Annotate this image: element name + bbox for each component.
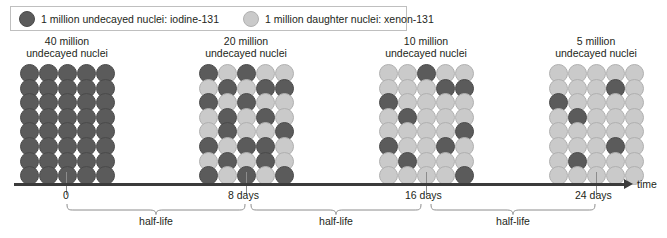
nuclei-group-title-16-days: 10 million undecayed nuclei bbox=[356, 36, 496, 59]
halflife-label-3: half-life bbox=[430, 215, 596, 227]
nuclei-group-16-days: 10 million undecayed nuclei bbox=[356, 36, 496, 181]
nuclei-group-title-24-days: 5 million undecayed nuclei bbox=[526, 36, 666, 59]
diagram-canvas: 1 million undecayed nuclei: iodine-131 1… bbox=[0, 0, 667, 238]
nuclei-group-title-0-days: 40 million undecayed nuclei bbox=[0, 36, 137, 59]
time-axis-arrow-icon bbox=[624, 179, 633, 189]
nuclei-group-8-days: 20 million undecayed nuclei bbox=[176, 36, 316, 181]
legend-label-daughter: 1 million daughter nuclei: xenon-131 bbox=[265, 13, 434, 25]
nuclei-grid-16-days bbox=[356, 64, 496, 181]
axis-tick-label-24: 24 days bbox=[575, 189, 612, 201]
legend-swatch-light-circle-icon bbox=[243, 11, 259, 27]
time-axis-line bbox=[14, 183, 626, 186]
axis-tick-0 bbox=[66, 172, 67, 183]
halflife-label-2: half-life bbox=[250, 215, 422, 227]
legend: 1 million undecayed nuclei: iodine-131 1… bbox=[10, 6, 407, 31]
halflife-label-1: half-life bbox=[66, 215, 246, 227]
halflife-brace-1 bbox=[66, 204, 246, 215]
axis-tick-24 bbox=[596, 172, 597, 183]
nuclei-group-24-days: 5 million undecayed nuclei bbox=[526, 36, 666, 181]
nuclei-grid-8-days bbox=[176, 64, 316, 181]
axis-tick-16 bbox=[426, 172, 427, 183]
legend-entry-undecayed: 1 million undecayed nuclei: iodine-131 bbox=[19, 7, 219, 30]
axis-tick-8 bbox=[246, 172, 247, 183]
legend-label-undecayed: 1 million undecayed nuclei: iodine-131 bbox=[41, 13, 219, 25]
axis-tick-label-8: 8 days bbox=[228, 189, 259, 201]
nuclei-group-title-8-days: 20 million undecayed nuclei bbox=[176, 36, 316, 59]
time-axis-label: time bbox=[637, 178, 657, 190]
halflife-brace-3 bbox=[430, 204, 596, 215]
axis-tick-label-16: 16 days bbox=[405, 189, 442, 201]
nuclei-grid-24-days bbox=[526, 64, 666, 181]
axis-tick-label-0: 0 bbox=[63, 189, 69, 201]
legend-swatch-dark-circle-icon bbox=[19, 11, 35, 27]
halflife-brace-2 bbox=[250, 204, 422, 215]
nuclei-group-0-days: 40 million undecayed nuclei bbox=[0, 36, 137, 181]
legend-entry-daughter: 1 million daughter nuclei: xenon-131 bbox=[243, 7, 434, 30]
nuclei-grid-0-days bbox=[0, 64, 137, 181]
